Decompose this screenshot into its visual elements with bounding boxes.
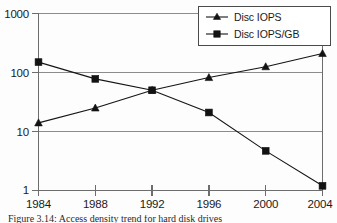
- series-disc-iops-gb: [35, 59, 326, 190]
- square-marker: [206, 109, 213, 116]
- square-marker: [149, 87, 156, 94]
- series-line: [39, 53, 323, 122]
- figure-caption-strip: Figure 3.14: Access density trend for ha…: [0, 215, 337, 223]
- chart-legend: Disc IOPS Disc IOPS/GB: [199, 7, 331, 46]
- x-tick-label-2004: 2004: [308, 198, 334, 210]
- y-tick-label-10: 10: [17, 126, 29, 138]
- x-tick-label-1992: 1992: [140, 198, 165, 210]
- x-tick-label-1984: 1984: [26, 198, 52, 210]
- square-marker: [262, 147, 269, 154]
- x-tick-label-1988: 1988: [83, 198, 108, 210]
- x-tick-label-2000: 2000: [253, 198, 278, 210]
- x-tick-label-1996: 1996: [197, 198, 222, 210]
- square-marker: [92, 75, 99, 82]
- series-layer: [35, 49, 327, 189]
- series-line: [39, 62, 323, 186]
- y-tick-label-1000: 1000: [4, 8, 29, 20]
- y-tick-label-100: 100: [10, 67, 29, 79]
- series-disc-iops: [35, 49, 327, 125]
- figure-caption: Figure 3.14: Access density trend for ha…: [8, 215, 222, 223]
- square-marker: [35, 59, 42, 66]
- square-marker: [319, 182, 326, 189]
- y-tickmarks: [32, 14, 38, 191]
- log-line-chart: 1000 100 10 1 1984 1988 1992 1996 2000 2…: [0, 0, 337, 223]
- triangle-marker: [319, 49, 327, 56]
- y-tick-label-1: 1: [23, 184, 29, 196]
- legend-label-disc-iops: Disc IOPS: [234, 11, 282, 23]
- chart-figure: 1000 100 10 1 1984 1988 1992 1996 2000 2…: [0, 0, 337, 223]
- legend-label-disc-iops-gb: Disc IOPS/GB: [234, 28, 299, 40]
- square-marker: [214, 31, 220, 37]
